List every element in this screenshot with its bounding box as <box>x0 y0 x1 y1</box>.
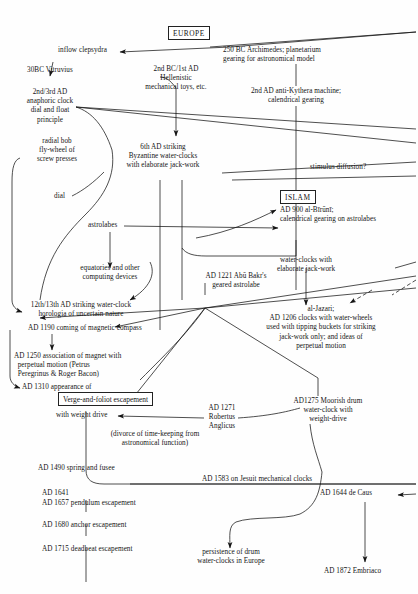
node-magnet-perpetual-motion: AD 1250 association of magnet with perpe… <box>14 352 121 380</box>
node-ad1310: AD 1310 appearance of <box>22 383 92 392</box>
diagram-canvas: EUROPE inflow clepsydra 30BC Vitruvius 2… <box>0 0 418 594</box>
node-persistence-drum: persistence of drum water-clocks in Euro… <box>186 548 276 566</box>
region-label-europe: EUROPE <box>168 26 210 40</box>
node-divorce-note: (divorce of time-keeping from astronomic… <box>92 430 218 448</box>
node-equatories: equatories and other computing devices <box>72 264 148 282</box>
node-magnetic-compass: AD 1190 coming of magnetic compass <box>28 324 142 333</box>
node-anchor-escapement: AD 1680 anchor escapement <box>42 521 126 530</box>
node-al-jazari: al-Jazari; AD 1206 clocks with water-whe… <box>248 305 394 351</box>
node-de-caus: AD 1644 de Caus <box>320 489 372 498</box>
node-moorish-drum: AD1275 Moorish drum water-clock with wei… <box>286 397 370 425</box>
node-jesuit-clocks: AD 1583 on Jesuit mechanical clocks <box>202 475 312 484</box>
node-inflow-clepsydra: inflow clepsydra <box>58 46 107 55</box>
node-vitruvius: 30BC Vitruvius <box>27 66 73 75</box>
node-stimulus-diffusion: stimulus diffusion? <box>310 163 366 172</box>
node-anaphoric-clock: 2nd/3rd AD anaphoric clock dial and floa… <box>12 88 88 125</box>
node-deadbeat-escapement: AD 1715 deadbeat escapement <box>42 545 133 554</box>
node-water-clocks-jackwork: water-clocks with elaborate jack-work <box>258 256 354 274</box>
node-embriaco: AD 1872 Embriaco <box>324 567 381 576</box>
node-antikythera: 2nd AD anti-Kythera machine; calendrical… <box>218 87 374 105</box>
region-label-islam: ISLAM <box>280 190 316 204</box>
node-with-weight-drive: with weight drive <box>56 411 108 420</box>
node-spring-and-fusee: AD 1490 spring and fusee <box>38 464 115 473</box>
node-astrolabes: astrolabes <box>88 221 117 230</box>
node-horologia: 12th/13th AD striking water-clock horolo… <box>20 301 142 319</box>
node-ad1641: AD 1641 <box>42 489 69 498</box>
node-byzantine-water-clocks: 6th AD striking Byzantine water-clocks w… <box>108 143 218 171</box>
node-dial: dial <box>54 192 65 201</box>
node-radial-bob: radial bob fly-wheel of screw presses <box>24 137 90 165</box>
node-archimedes: 250 BC Archimedes; planetarium gearing f… <box>223 46 321 64</box>
node-robertus-anglicus: AD 1271 Robertus Anglicus <box>204 404 240 432</box>
node-al-biruni: AD 900 al-Bīrūnī; calendrical gearing on… <box>280 206 376 224</box>
node-hellenistic: 2nd BC/1st AD Hellenistic mechanical toy… <box>127 65 225 93</box>
node-abu-bakr: AD 1221 Abū Bakr's geared astrolabe <box>196 272 276 290</box>
node-pendulum-escapement: AD 1657 pendulum escapement <box>42 499 136 508</box>
node-verge-and-foliot-box: Verge-and-foliot escapement <box>58 392 153 406</box>
